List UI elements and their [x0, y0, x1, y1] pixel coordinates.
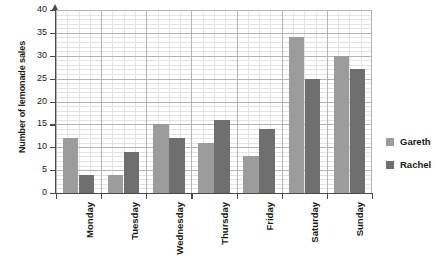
plot-area — [56, 10, 372, 193]
y-tick-mark — [50, 10, 55, 11]
y-tick-mark — [50, 124, 55, 125]
y-tick-label: 40 — [20, 4, 47, 14]
y-tick-mark — [50, 193, 55, 194]
x-tick-mark — [282, 194, 283, 199]
y-tick-label: 15 — [20, 118, 47, 128]
y-tick-mark — [50, 79, 55, 80]
y-tick-mark — [50, 56, 55, 57]
bar-rachel-wednesday — [169, 138, 185, 193]
y-tick-label: 25 — [20, 73, 47, 83]
legend-entry-rachel: Rachel — [386, 159, 431, 170]
y-tick-label: 35 — [20, 27, 47, 37]
y-tick-label: 0 — [20, 187, 47, 197]
bar-rachel-thursday — [214, 120, 230, 193]
x-axis-line — [56, 193, 373, 194]
x-label-monday: Monday — [84, 202, 95, 238]
x-label-friday: Friday — [264, 202, 275, 231]
x-label-tuesday: Tuesday — [129, 202, 140, 240]
legend-label-rachel: Rachel — [400, 159, 431, 170]
bar-rachel-monday — [79, 175, 95, 193]
chart-legend: GarethRachel — [386, 136, 431, 182]
x-label-saturday: Saturday — [309, 202, 320, 243]
y-tick-label: 10 — [20, 141, 47, 151]
y-tick-mark — [50, 170, 55, 171]
bar-rachel-friday — [259, 129, 275, 193]
x-label-thursday: Thursday — [219, 202, 230, 245]
bar-gareth-sunday — [334, 56, 350, 193]
legend-swatch-rachel — [386, 161, 394, 169]
x-label-sunday: Sunday — [354, 202, 365, 236]
legend-label-gareth: Gareth — [400, 136, 431, 147]
x-tick-mark — [237, 194, 238, 199]
y-tick-mark — [50, 33, 55, 34]
x-tick-mark — [146, 194, 147, 199]
bar-gareth-tuesday — [108, 175, 124, 193]
bar-rachel-sunday — [350, 69, 366, 193]
legend-entry-gareth: Gareth — [386, 136, 431, 147]
y-tick-label: 30 — [20, 50, 47, 60]
x-tick-mark — [372, 194, 373, 199]
y-tick-mark — [50, 102, 55, 103]
y-tick-label: 20 — [20, 96, 47, 106]
bars-layer — [56, 10, 372, 193]
bar-gareth-friday — [243, 156, 259, 193]
bar-gareth-thursday — [198, 143, 214, 193]
bar-gareth-monday — [63, 138, 79, 193]
lemonade-sales-bar-chart: Number of lemonade sales 051015202530354… — [0, 0, 436, 267]
y-tick-label: 5 — [20, 164, 47, 174]
bar-gareth-wednesday — [153, 124, 169, 193]
y-tick-mark — [50, 147, 55, 148]
bar-rachel-saturday — [305, 79, 321, 193]
x-label-wednesday: Wednesday — [174, 202, 185, 255]
y-axis-line — [55, 8, 56, 194]
x-tick-mark — [191, 194, 192, 199]
x-tick-mark — [327, 194, 328, 199]
legend-swatch-gareth — [386, 138, 394, 146]
x-tick-mark — [101, 194, 102, 199]
bar-rachel-tuesday — [124, 152, 140, 193]
bar-gareth-saturday — [289, 37, 305, 193]
x-tick-mark — [56, 194, 57, 199]
